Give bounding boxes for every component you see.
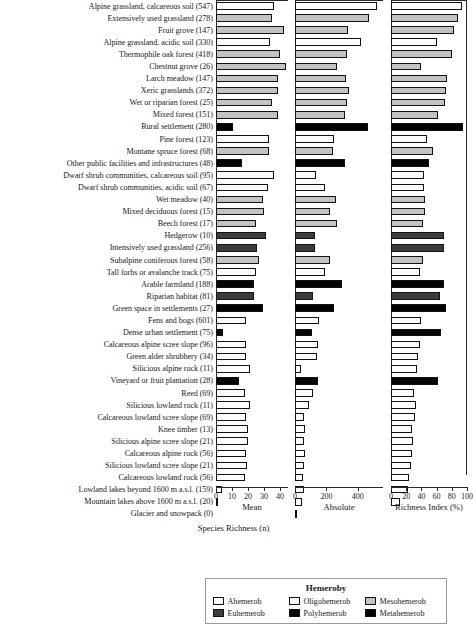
chart-row: Pine forest (123) bbox=[0, 133, 467, 145]
axis-tick bbox=[452, 487, 453, 491]
category-label: Reed (69) bbox=[0, 389, 216, 398]
bar bbox=[391, 111, 438, 119]
chart-row: Alpine grassland, calcareous soil (547) bbox=[0, 0, 467, 12]
bar-cell-richness-index bbox=[391, 36, 467, 48]
bar-cell-absolute bbox=[295, 387, 383, 399]
x-axis-absolute: 0200400Absolute bbox=[295, 487, 383, 509]
legend-item-mesohemerob: Mesohemerob bbox=[365, 597, 439, 606]
bar-cell-richness-index bbox=[391, 447, 467, 459]
bar bbox=[216, 341, 246, 349]
category-label: Fruit grove (147) bbox=[0, 26, 216, 35]
category-label: Calcareous alpine scree slope (96) bbox=[0, 340, 216, 349]
bar bbox=[391, 171, 424, 179]
category-label: Dwarf shrub communities, calcareous soil… bbox=[0, 171, 216, 180]
legend-swatch-euhemerob bbox=[213, 609, 224, 617]
axis-tick bbox=[421, 487, 422, 491]
bar-cell-absolute bbox=[295, 169, 383, 181]
category-label: Silicious alpine rock (11) bbox=[0, 364, 216, 373]
bar-cell-absolute bbox=[295, 230, 383, 242]
bar bbox=[391, 50, 452, 58]
bar-cell-absolute bbox=[295, 302, 383, 314]
axis-tick-label: 0 bbox=[389, 492, 393, 501]
category-label: Green alder shrubbery (34) bbox=[0, 352, 216, 361]
bar-cell-mean bbox=[216, 314, 288, 326]
category-label: Dense urban settlement (75) bbox=[0, 328, 216, 337]
bar bbox=[216, 232, 266, 240]
bar-cell-absolute bbox=[295, 206, 383, 218]
bar-cell-absolute bbox=[295, 254, 383, 266]
bar-cell-absolute bbox=[295, 97, 383, 109]
bar bbox=[216, 244, 257, 252]
bar bbox=[295, 304, 334, 312]
category-label: Silicious lowland rock (11) bbox=[0, 401, 216, 410]
bar bbox=[295, 389, 313, 397]
bar bbox=[216, 292, 254, 300]
category-label: Silicious alpine scree slope (21) bbox=[0, 437, 216, 446]
axis-tick bbox=[391, 487, 392, 491]
bar-cell-absolute bbox=[295, 133, 383, 145]
bar-cell-absolute bbox=[295, 181, 383, 193]
axis-tick-label: 80 bbox=[448, 492, 456, 501]
bar-cell-absolute bbox=[295, 36, 383, 48]
bar bbox=[391, 329, 441, 337]
bar bbox=[391, 232, 444, 240]
bar bbox=[216, 26, 284, 34]
bar bbox=[216, 401, 250, 409]
axis-tick bbox=[406, 487, 407, 491]
bar bbox=[295, 425, 305, 433]
bar-cell-absolute bbox=[295, 218, 383, 230]
category-label: Chestnut grove (26) bbox=[0, 62, 216, 71]
category-label: Montane spruce forest (68) bbox=[0, 147, 216, 156]
category-label: Intensively used grassland (256) bbox=[0, 243, 216, 252]
bar-cell-mean bbox=[216, 472, 288, 484]
bar-cell-richness-index bbox=[391, 302, 467, 314]
chart-row: Xeric grasslands (372) bbox=[0, 85, 467, 97]
bar bbox=[295, 2, 377, 10]
bar-cell-mean bbox=[216, 302, 288, 314]
bar-cell-richness-index bbox=[391, 460, 467, 472]
bar-cell-richness-index bbox=[391, 206, 467, 218]
bar bbox=[216, 304, 263, 312]
bar-cell-mean bbox=[216, 181, 288, 193]
bar bbox=[295, 365, 301, 373]
legend-swatch-mesohemerob bbox=[365, 597, 376, 605]
bar-cell-absolute bbox=[295, 194, 383, 206]
chart-row: Silicious alpine rock (11) bbox=[0, 363, 467, 375]
bar-cell-mean bbox=[216, 254, 288, 266]
axis-tick-label: 100 bbox=[461, 492, 473, 501]
panel-title: Mean bbox=[216, 502, 288, 512]
chart-row: Knee timber (13) bbox=[0, 423, 467, 435]
bar bbox=[391, 341, 420, 349]
bar-cell-absolute bbox=[295, 278, 383, 290]
category-label: Subalpine coniferous forest (58) bbox=[0, 256, 216, 265]
category-label: Arable farmland (188) bbox=[0, 280, 216, 289]
bar bbox=[391, 256, 423, 264]
chart-row: Fens and bogs (601) bbox=[0, 314, 467, 326]
bar-cell-richness-index bbox=[391, 48, 467, 60]
legend-label: Ahemerob bbox=[228, 597, 262, 606]
bar bbox=[216, 329, 223, 337]
bar-cell-mean bbox=[216, 387, 288, 399]
legend-swatch-oligohemerob bbox=[289, 597, 300, 605]
legend-label: Polyhemerob bbox=[304, 609, 347, 618]
bar bbox=[295, 208, 330, 216]
bar-cell-mean bbox=[216, 60, 288, 72]
bar bbox=[391, 317, 421, 325]
bar-cell-richness-index bbox=[391, 254, 467, 266]
chart-row: Silicious lowland rock (11) bbox=[0, 399, 467, 411]
bar-cell-mean bbox=[216, 278, 288, 290]
category-label: Wet or riparian forest (25) bbox=[0, 98, 216, 107]
bar-cell-richness-index bbox=[391, 363, 467, 375]
bar-cell-mean bbox=[216, 73, 288, 85]
category-label: Other public facilities and infrastructu… bbox=[0, 159, 216, 168]
chart-row: Chestnut grove (26) bbox=[0, 60, 467, 72]
bar-cell-mean bbox=[216, 351, 288, 363]
bar bbox=[216, 280, 254, 288]
bar bbox=[216, 171, 274, 179]
bar-cell-mean bbox=[216, 24, 288, 36]
category-label: Calcareous lowland rock (56) bbox=[0, 473, 216, 482]
bar-cell-richness-index bbox=[391, 157, 467, 169]
legend-item-metahemerob: Metahemerob bbox=[365, 609, 439, 618]
bar-cell-richness-index bbox=[391, 121, 467, 133]
bar-cell-mean bbox=[216, 447, 288, 459]
